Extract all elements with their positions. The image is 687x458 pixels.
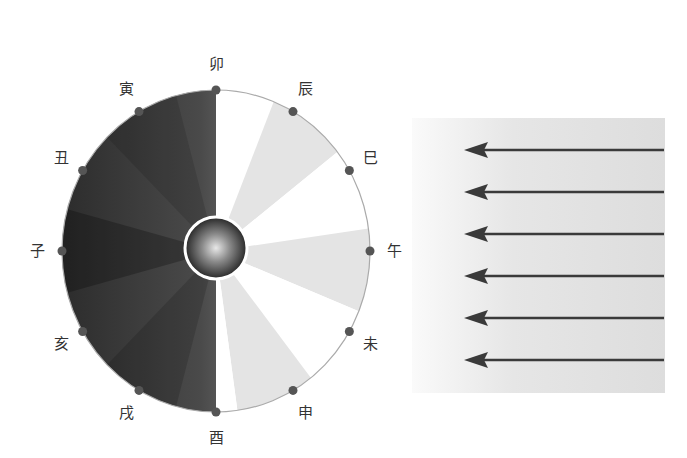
branch-label: 申	[298, 405, 313, 420]
sunlight-arrows	[412, 118, 665, 393]
branch-dot	[289, 107, 298, 116]
branch-label: 子	[30, 244, 45, 259]
branch-dot	[345, 166, 354, 175]
branch-dot	[345, 327, 354, 336]
branch-dot	[135, 386, 144, 395]
sunlight-arrow	[464, 268, 664, 284]
earth-sphere	[185, 217, 247, 279]
branch-label: 戌	[119, 405, 134, 420]
branch-label: 酉	[209, 430, 224, 445]
sunlight-arrow	[464, 226, 664, 242]
branch-label: 卯	[209, 57, 224, 72]
sunlight-arrow	[464, 352, 664, 368]
branch-label: 巳	[363, 150, 378, 165]
sunlight-arrow	[464, 142, 664, 158]
branch-dot	[58, 247, 67, 256]
branch-dot	[212, 408, 221, 417]
branch-label: 辰	[298, 82, 313, 97]
sunlight-arrow	[464, 184, 664, 200]
sunlight-arrow	[464, 310, 664, 326]
branch-dot	[289, 386, 298, 395]
branch-dot	[366, 247, 375, 256]
branch-dot	[78, 166, 87, 175]
branch-label: 寅	[119, 82, 134, 97]
branch-label: 丑	[54, 150, 69, 165]
branch-dot	[135, 107, 144, 116]
branch-label: 亥	[54, 337, 69, 352]
branch-dot	[212, 86, 221, 95]
branch-dot	[78, 327, 87, 336]
branch-label: 午	[387, 244, 402, 259]
diagram-canvas: 卯辰巳午未申酉戌亥子丑寅	[0, 0, 687, 458]
sunlight-panel	[412, 118, 665, 393]
branch-label: 未	[363, 337, 378, 352]
